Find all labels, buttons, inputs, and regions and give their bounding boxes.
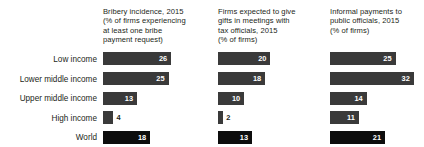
row-label-high-income: High income xyxy=(0,114,97,123)
bar-row-world: 13 xyxy=(218,131,252,144)
panel-gifts-tax-officials: Firms expected to give gifts in meetings… xyxy=(218,0,326,147)
panel-title-gifts-tax-officials: Firms expected to give gifts in meetings… xyxy=(218,7,296,44)
bar xyxy=(103,111,113,124)
bar-row-high-income: 4 xyxy=(103,111,113,124)
bar-value-label: 13 xyxy=(240,131,248,144)
bar-value-label: 4 xyxy=(116,111,120,124)
bar-row-upper-middle-income: 10 xyxy=(218,92,244,105)
bar-value-label: 20 xyxy=(258,52,266,65)
bar-value-label: 18 xyxy=(138,131,146,144)
bar-row-low-income: 20 xyxy=(218,52,270,65)
row-label-world: World xyxy=(0,133,97,142)
panel-informal-payments: Informal payments to public officials, 2… xyxy=(330,0,424,147)
bar-value-label: 13 xyxy=(125,92,133,105)
bar-value-label: 10 xyxy=(232,92,240,105)
bar-row-world: 18 xyxy=(103,131,150,144)
bar-row-lower-middle-income: 32 xyxy=(330,72,414,85)
bar-value-label: 21 xyxy=(373,131,381,144)
bar-value-label: 32 xyxy=(402,72,410,85)
row-label-lower-middle-income: Lower middle income xyxy=(0,75,97,84)
bar-row-lower-middle-income: 18 xyxy=(218,72,265,85)
bar-row-high-income: 11 xyxy=(330,111,359,124)
panel-bribery-incidence: Bribery incidence, 2015 (% of firms expe… xyxy=(103,0,215,147)
bar-value-label: 14 xyxy=(354,92,362,105)
bar-value-label: 25 xyxy=(156,72,164,85)
bar-row-upper-middle-income: 14 xyxy=(330,92,367,105)
bar-value-label: 26 xyxy=(159,52,167,65)
bar-value-label: 25 xyxy=(383,52,391,65)
bar-row-upper-middle-income: 13 xyxy=(103,92,137,105)
panel-title-bribery-incidence: Bribery incidence, 2015 (% of firms expe… xyxy=(103,7,186,44)
bar-row-high-income: 2 xyxy=(218,111,223,124)
bar-row-lower-middle-income: 25 xyxy=(103,72,169,85)
bribery-indicators-bar-chart: Low income Lower middle income Upper mid… xyxy=(0,0,424,147)
bar-value-label: 11 xyxy=(347,111,355,124)
bar-row-low-income: 26 xyxy=(103,52,171,65)
bar xyxy=(218,111,223,124)
panel-title-informal-payments: Informal payments to public officials, 2… xyxy=(330,7,402,35)
row-label-upper-middle-income: Upper middle income xyxy=(0,94,97,103)
bar-value-label: 18 xyxy=(253,72,261,85)
bar-row-world: 21 xyxy=(330,131,385,144)
row-label-low-income: Low income xyxy=(0,55,97,64)
bar-value-label: 2 xyxy=(226,111,230,124)
bar-row-low-income: 25 xyxy=(330,52,396,65)
